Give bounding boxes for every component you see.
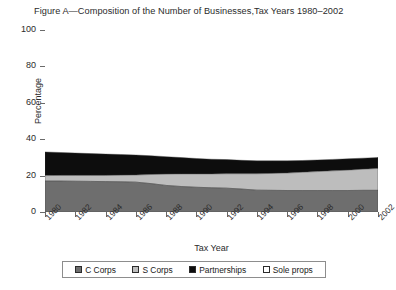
legend-item-sole-props[interactable]: Sole props	[263, 265, 313, 275]
y-tick-label: 80	[4, 60, 36, 70]
legend-swatch-icon	[132, 266, 139, 273]
legend-item-partnerships[interactable]: Partnerships	[189, 265, 246, 275]
chart-legend: C CorpsS CorpsPartnershipsSole props	[62, 261, 326, 278]
y-tick-label: 20	[4, 170, 36, 180]
y-tick-label: 60	[4, 97, 36, 107]
x-tick-label: 2002	[376, 202, 396, 222]
legend-label: S Corps	[142, 265, 172, 275]
y-tick-label: 0	[4, 206, 36, 216]
stacked-area-plot	[45, 30, 378, 212]
legend-swatch-icon	[263, 266, 270, 273]
legend-label: Partnerships	[199, 265, 246, 275]
legend-swatch-icon	[189, 266, 196, 273]
y-axis-ticks: 020406080100	[0, 0, 44, 290]
legend-label: Sole props	[273, 265, 313, 275]
legend-label: C Corps	[85, 265, 116, 275]
legend-item-c-corps[interactable]: C Corps	[75, 265, 116, 275]
legend-item-s-corps[interactable]: S Corps	[132, 265, 172, 275]
y-tick-label: 100	[4, 24, 36, 34]
y-tick-label: 40	[4, 133, 36, 143]
chart-title: Figure A—Composition of the Number of Bu…	[34, 6, 384, 16]
legend-swatch-icon	[75, 266, 82, 273]
x-axis-title: Tax Year	[45, 243, 378, 253]
area-band-sole-props	[45, 30, 378, 161]
